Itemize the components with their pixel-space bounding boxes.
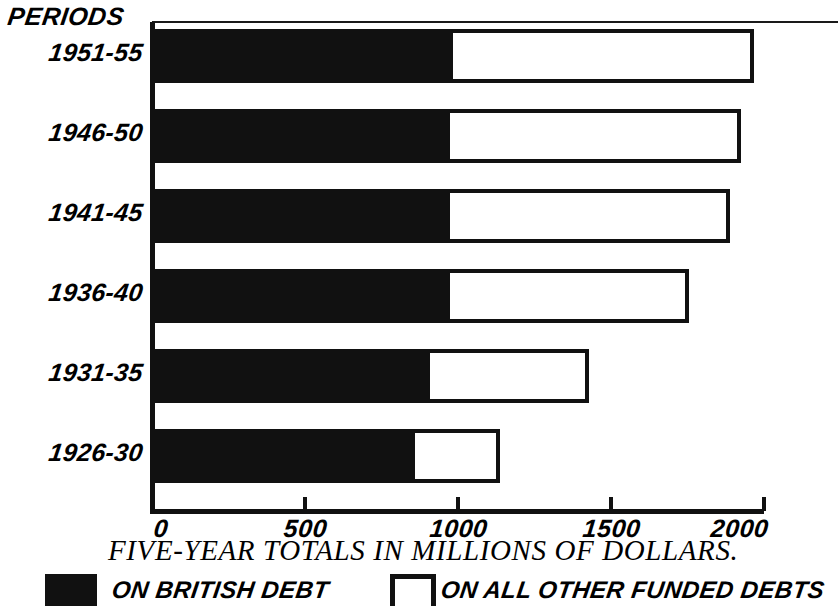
period-label-1931-35: 1931-35 [47,358,145,387]
bar-segment-british-debt [153,349,430,403]
legend-label-other-funded-debts: ON ALL OTHER FUNDED DEBTS [439,576,826,604]
bar-row [153,189,730,243]
bar-segment-british-debt [153,109,450,163]
bar-row [153,349,589,403]
legend-swatch-british-debt [45,574,97,606]
chart-root: PERIODS 0500100015002000 1951-551946-501… [0,0,838,606]
legend-label-british-debt: ON BRITISH DEBT [110,576,331,604]
period-label-1946-50: 1946-50 [47,118,145,147]
bar-segment-british-debt [153,29,453,83]
x-axis-title: FIVE-YEAR TOTALS IN MILLIONS OF DOLLARS. [108,534,738,567]
chart-legend: ON BRITISH DEBT ON ALL OTHER FUNDED DEBT… [0,570,838,606]
bars-layer: 1951-551946-501941-451936-401931-351926-… [0,0,838,606]
period-label-1936-40: 1936-40 [47,278,145,307]
period-label-1941-45: 1941-45 [47,198,145,227]
bar-segment-british-debt [153,189,450,243]
legend-swatch-other-funded-debts [390,574,436,606]
period-label-1951-55: 1951-55 [47,38,145,67]
bar-row [153,29,754,83]
bar-row [153,109,741,163]
bar-row [153,269,689,323]
bar-row [153,429,500,483]
period-label-1926-30: 1926-30 [47,438,145,467]
bar-segment-british-debt [153,269,450,323]
bar-segment-british-debt [153,429,415,483]
